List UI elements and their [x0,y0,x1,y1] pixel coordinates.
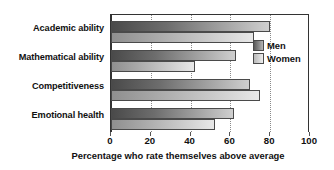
bar-chart: Academic ability Mathematical ability Co… [0,0,334,170]
legend-label: Women [267,53,301,64]
bar-women [111,90,260,101]
x-tick-label: 60 [224,135,235,146]
category-axis-labels: Academic ability Mathematical ability Co… [0,14,106,132]
legend-swatch-men-icon [253,40,264,51]
plot-inner [111,15,308,132]
x-tick-label: 40 [184,135,195,146]
plot-area [110,14,309,132]
category-label: Academic ability [0,23,104,33]
bar-women [111,32,254,43]
x-tick-label: 80 [264,135,275,146]
category-label: Mathematical ability [0,52,104,62]
bar-men [111,79,250,90]
bar-men [111,108,234,119]
legend-swatch-women-icon [253,53,264,64]
legend: Men Women [253,40,301,64]
x-axis-title: Percentage who rate themselves above ave… [0,150,334,161]
x-tick-label: 0 [107,135,112,146]
legend-label: Men [267,40,286,51]
bar-men [111,50,236,61]
category-label: Emotional health [0,110,104,120]
x-tick-label: 100 [301,135,317,146]
legend-item-men: Men [253,40,301,51]
bar-men [111,21,270,32]
category-label: Competitiveness [0,81,104,91]
bar-women [111,61,195,72]
gridline-80 [270,15,271,132]
bar-women [111,119,215,130]
legend-item-women: Women [253,53,301,64]
x-tick-label: 20 [144,135,155,146]
